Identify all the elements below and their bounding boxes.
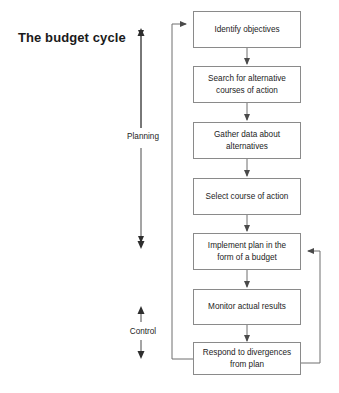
node-select-course[interactable]: Select course of action	[193, 178, 301, 215]
bracket-label-control: Control	[117, 326, 169, 337]
node-line: Implement plan in the	[208, 240, 286, 252]
budget-cycle-diagram: The budget cycle	[0, 0, 339, 393]
bracket-label-planning: Planning	[117, 131, 169, 142]
node-line: Monitor actual results	[208, 301, 286, 313]
node-line: courses of action	[208, 85, 286, 97]
feedback-loop-left	[172, 24, 193, 359]
node-line: Search for alternative	[208, 73, 286, 85]
feedback-loop-right	[301, 251, 320, 363]
node-line: Gather data about	[214, 129, 280, 141]
node-search-alternatives[interactable]: Search for alternative courses of action	[193, 66, 301, 103]
node-line: form of a budget	[208, 252, 286, 264]
node-gather-data[interactable]: Gather data about alternatives	[193, 122, 301, 159]
node-line: Respond to divergences	[203, 347, 291, 359]
node-monitor-results[interactable]: Monitor actual results	[193, 289, 301, 325]
node-line: alternatives	[214, 141, 280, 153]
node-identify-objectives[interactable]: Identify objectives	[193, 11, 301, 48]
node-implement-plan[interactable]: Implement plan in the form of a budget	[193, 233, 301, 270]
node-respond-divergences[interactable]: Respond to divergences from plan	[193, 342, 301, 375]
node-line: from plan	[203, 359, 291, 371]
page-title: The budget cycle	[18, 30, 126, 45]
node-line: Identify objectives	[214, 24, 279, 36]
node-line: Select course of action	[206, 191, 289, 203]
